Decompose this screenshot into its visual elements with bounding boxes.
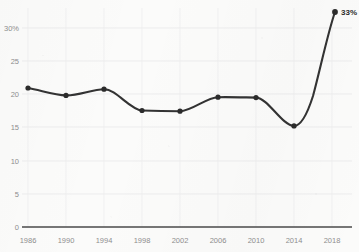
data-point-1994[interactable]: [101, 87, 106, 92]
line-chart-figure: 30% 25 20 15 10 5 0 33% 1986: [0, 0, 359, 252]
x-tick-label-1990: 1990: [58, 236, 75, 245]
data-point-2006[interactable]: [215, 95, 220, 100]
data-point-2010[interactable]: [253, 95, 258, 100]
x-axis-tick-labels: 1986 1990 1994 1998 2002 2006 2010 2014 …: [20, 236, 341, 245]
y-axis-tick-labels: 30% 25 20 15 10 5 0: [4, 24, 19, 232]
data-point-1998[interactable]: [139, 108, 144, 113]
x-tick-label-2010: 2010: [248, 236, 265, 245]
x-tick-label-2002: 2002: [172, 236, 189, 245]
data-label-2018: 33%: [341, 8, 357, 17]
data-point-1990[interactable]: [63, 93, 68, 98]
x-tick-label-2006: 2006: [210, 236, 227, 245]
x-tick-label-2014: 2014: [286, 236, 303, 245]
data-point-2018[interactable]: [332, 9, 338, 15]
x-tick-label-1994: 1994: [96, 236, 113, 245]
series-markers: [25, 9, 338, 128]
y-tick-label-15: 15: [11, 123, 19, 132]
chart-svg: 30% 25 20 15 10 5 0 33% 1986: [0, 0, 359, 252]
y-tick-label-0: 0: [15, 223, 19, 232]
y-tick-label-25: 25: [11, 57, 19, 66]
x-tick-label-1986: 1986: [20, 236, 37, 245]
x-tick-label-2018: 2018: [324, 236, 341, 245]
y-tick-label-20: 20: [11, 90, 19, 99]
y-tick-label-10: 10: [11, 157, 19, 166]
data-point-2002[interactable]: [177, 109, 182, 114]
series-line-path: [28, 12, 335, 126]
y-tick-label-5: 5: [15, 190, 19, 199]
horizontal-gridlines: [22, 28, 352, 194]
data-point-1986[interactable]: [25, 85, 30, 90]
y-tick-label-30: 30%: [4, 24, 19, 33]
x-tick-label-1998: 1998: [134, 236, 151, 245]
data-point-2014[interactable]: [291, 123, 296, 128]
